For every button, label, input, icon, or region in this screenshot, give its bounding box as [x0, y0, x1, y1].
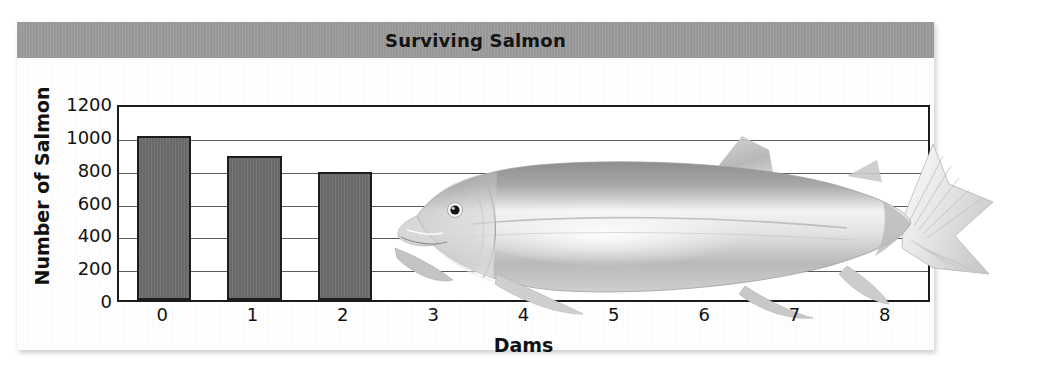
x-axis-tick-label: 4	[504, 306, 544, 324]
y-axis-tick-label: 1200	[54, 96, 112, 114]
y-axis-tick-label: 600	[54, 195, 112, 213]
x-axis-tick-label: 6	[684, 306, 724, 324]
bar	[227, 156, 281, 300]
y-axis-tick-labels: 020040060080010001200	[54, 58, 112, 350]
x-axis-tick-label: 1	[233, 306, 273, 324]
x-axis-tick-label: 0	[142, 306, 182, 324]
y-axis-tick-label: 800	[54, 162, 112, 180]
plot-area	[117, 105, 930, 302]
x-axis-tick-label: 8	[865, 306, 905, 324]
x-axis-title: Dams	[117, 334, 930, 356]
chart-title: Surviving Salmon	[385, 30, 566, 51]
y-axis-tick-label: 400	[54, 227, 112, 245]
chart-title-band: Surviving Salmon	[17, 22, 934, 58]
bar	[137, 136, 191, 300]
y-axis-tick-label: 0	[54, 293, 112, 311]
bar	[318, 172, 372, 300]
x-axis-tick-label: 7	[775, 306, 815, 324]
y-axis-title: Number of Salmon	[28, 86, 56, 286]
x-axis-tick-label: 3	[413, 306, 453, 324]
x-axis-tick-label: 5	[594, 306, 634, 324]
chart-figure: Surviving Salmon Number of Salmon 020040…	[17, 22, 934, 350]
chart-canvas: Number of Salmon 020040060080010001200	[17, 58, 934, 350]
x-axis-tick-label: 2	[323, 306, 363, 324]
y-axis-tick-label: 200	[54, 260, 112, 278]
x-axis-tick-labels: 012345678	[117, 306, 930, 332]
gridline	[119, 140, 928, 141]
y-axis-tick-label: 1000	[54, 129, 112, 147]
